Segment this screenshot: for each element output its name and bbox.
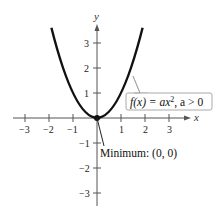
x-axis-arrow-icon [184,116,191,121]
minimum-leader-line [97,118,104,146]
y-axis-arrow-icon [95,24,100,31]
x-tick-labels: −3 −2 −1 1 2 3 [19,124,172,135]
y-tick-label: −1 [79,138,90,149]
function-label: f(x) = ax2, a > 0 [130,95,203,109]
function-callout: f(x) = ax2, a > 0 [126,76,212,110]
x-tick-label: −3 [19,124,30,135]
x-axis-label: x [193,111,199,123]
x-tick-label: −1 [67,124,78,135]
x-tick-label: 3 [167,124,172,135]
x-tick-label: 1 [119,124,124,135]
y-axis-label: y [93,10,99,22]
minimum-label: Minimum: (0, 0) [100,147,177,160]
y-tick-label: −2 [79,163,90,174]
y-tick-label: 1 [84,88,89,99]
y-tick-label: −3 [79,188,90,199]
x-tick-label: 2 [143,124,148,135]
y-tick-label: 3 [84,38,89,49]
x-tick-label: −2 [43,124,54,135]
parabola-chart: x y −3 −2 −1 1 2 3 3 2 1 −1 −2 −3 [0,0,224,213]
y-tick-label: 2 [84,63,89,74]
